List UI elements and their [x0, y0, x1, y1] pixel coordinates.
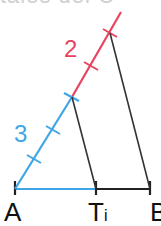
- parallel-line-top-to-b: [110, 33, 150, 189]
- label-point-b: B: [150, 199, 161, 225]
- thales-division-diagram: [0, 0, 161, 226]
- blue-tick-1: [27, 155, 41, 163]
- parallel-line-junction-to-ti: [72, 97, 96, 189]
- label-point-a: A: [4, 199, 21, 225]
- label-point-ti: Ti: [88, 199, 107, 225]
- label-point-t: T: [88, 197, 104, 226]
- red-ray-segment: [72, 12, 121, 97]
- label-segment-3: 3: [14, 122, 27, 146]
- label-point-t-subscript: i: [104, 207, 108, 224]
- label-segment-2: 2: [64, 37, 77, 61]
